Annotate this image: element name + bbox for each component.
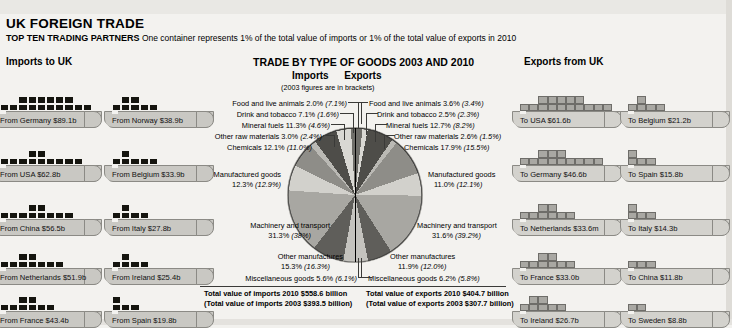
container-box bbox=[529, 304, 538, 311]
leader-export-food-v bbox=[358, 102, 359, 128]
container-box bbox=[538, 304, 547, 311]
container-column bbox=[548, 204, 557, 219]
export-ship-label: To China $11.8b bbox=[628, 273, 683, 282]
container-box bbox=[121, 304, 130, 311]
import-ship: From Netherlands $51.9b bbox=[0, 243, 102, 285]
leader-export-drink bbox=[366, 113, 378, 114]
exports-total-2003: (Total value of exports 2003 $307.7 bill… bbox=[366, 299, 514, 309]
export-ship: To Germany $46.6b bbox=[512, 140, 622, 182]
container-column bbox=[538, 204, 547, 219]
container-box bbox=[9, 261, 18, 268]
container-column bbox=[9, 261, 18, 268]
container-box bbox=[646, 212, 655, 219]
container-box bbox=[37, 261, 46, 268]
export-ship: To Netherlands $33.6m bbox=[512, 194, 622, 236]
export-label-otherman-val: 11.9% (12.0%) bbox=[398, 262, 446, 271]
container-stacks bbox=[0, 244, 64, 268]
container-box bbox=[628, 304, 637, 311]
subtitle-row: TOP TEN TRADING PARTNERS One container r… bbox=[6, 33, 516, 43]
container-box bbox=[566, 96, 575, 103]
export-ship: To Sweden $8.8b bbox=[620, 286, 730, 328]
container-column bbox=[628, 261, 637, 268]
export-label-mineral: Mineral fuels 12.7% (8.2%) bbox=[386, 121, 475, 130]
container-stacks bbox=[520, 244, 575, 268]
container-box bbox=[46, 304, 55, 311]
container-box bbox=[520, 212, 529, 219]
container-column bbox=[83, 104, 92, 111]
container-column bbox=[0, 104, 9, 111]
container-column bbox=[112, 212, 121, 219]
import-label-machinery-val: 31.3% (38%) bbox=[268, 231, 311, 240]
container-stacks bbox=[0, 141, 83, 165]
container-box bbox=[46, 212, 55, 219]
import-ship-label: From Belgium $33.9b bbox=[112, 170, 185, 179]
container-box bbox=[130, 304, 139, 311]
container-column bbox=[112, 296, 121, 311]
container-box bbox=[64, 104, 73, 111]
container-column bbox=[0, 304, 9, 311]
imports-total-2003: (Total value of imports 2003 $393.5 bill… bbox=[204, 299, 352, 309]
container-column bbox=[575, 158, 584, 165]
container-box bbox=[46, 158, 55, 165]
container-stacks bbox=[520, 287, 566, 311]
export-ship-label: To Italy $14.3b bbox=[628, 224, 677, 233]
leader-export-mineral bbox=[375, 124, 387, 125]
container-box bbox=[0, 261, 9, 268]
container-box bbox=[28, 204, 37, 211]
container-box bbox=[584, 158, 593, 165]
subtitle-bold: TOP TEN TRADING PARTNERS bbox=[6, 33, 140, 43]
container-stacks bbox=[112, 244, 149, 268]
container-column bbox=[55, 212, 64, 219]
ship-bow bbox=[712, 268, 730, 285]
import-ship-label: From USA $62.8b bbox=[0, 170, 60, 179]
export-ship-label: To Ireland $26.7b bbox=[520, 316, 579, 325]
container-column bbox=[646, 158, 655, 165]
container-column bbox=[55, 158, 64, 165]
container-box bbox=[37, 158, 46, 165]
container-box bbox=[28, 304, 37, 311]
import-ship: From Belgium $33.9b bbox=[104, 140, 214, 182]
container-column bbox=[46, 212, 55, 219]
container-box bbox=[28, 261, 37, 268]
container-box bbox=[0, 158, 9, 165]
container-column bbox=[9, 104, 18, 111]
container-column bbox=[46, 304, 55, 311]
container-column bbox=[0, 261, 9, 268]
container-box bbox=[557, 304, 566, 311]
export-ship-label: To Spain $15.8b bbox=[628, 170, 683, 179]
ship-bow bbox=[712, 219, 730, 236]
import-ship-label: From Netherlands $51.9b bbox=[0, 273, 86, 282]
container-column bbox=[557, 212, 566, 219]
export-ship: To USA $61.6b bbox=[512, 86, 622, 128]
exports-column-heading: Exports from UK bbox=[524, 56, 603, 67]
container-box bbox=[628, 212, 637, 219]
container-column bbox=[140, 261, 149, 268]
container-column bbox=[55, 96, 64, 111]
container-box bbox=[575, 104, 584, 111]
container-column bbox=[46, 96, 55, 111]
container-box bbox=[55, 212, 64, 219]
container-box bbox=[656, 104, 665, 111]
container-box bbox=[538, 104, 547, 111]
container-box bbox=[529, 296, 538, 303]
container-box bbox=[18, 158, 27, 165]
container-box bbox=[520, 104, 529, 111]
container-box bbox=[121, 96, 130, 103]
container-stacks bbox=[628, 87, 665, 111]
import-label-manufactured: Manufactured goods bbox=[214, 170, 281, 179]
container-column bbox=[55, 261, 64, 268]
container-box bbox=[548, 104, 557, 111]
container-box bbox=[628, 204, 637, 211]
container-column bbox=[646, 261, 655, 268]
container-column bbox=[628, 204, 637, 219]
container-stacks bbox=[0, 287, 55, 311]
import-ship-label: From Italy $27.8b bbox=[112, 224, 171, 233]
container-box bbox=[46, 96, 55, 103]
export-label-machinery: Machinery and transport bbox=[417, 221, 497, 230]
export-label-machinery-val: 31.6% (39.2%) bbox=[432, 231, 481, 240]
leader-export-otherraw bbox=[384, 135, 395, 136]
container-column bbox=[112, 158, 121, 165]
import-ship: From USA $62.8b bbox=[0, 140, 102, 182]
leader-export-misc bbox=[361, 277, 369, 278]
page-title: UK FOREIGN TRADE bbox=[6, 16, 144, 31]
